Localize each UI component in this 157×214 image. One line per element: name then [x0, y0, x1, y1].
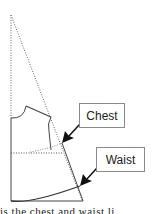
diagonal-guide-line — [11, 15, 82, 200]
waist-label: Waist — [96, 147, 145, 172]
chest-arrow-icon — [62, 124, 80, 143]
figure-caption: is the chest and waist li — [0, 205, 157, 214]
hem-curve — [11, 186, 80, 201]
armhole-curve — [48, 117, 51, 150]
shoulder-line — [26, 106, 51, 117]
chest-label: Chest — [79, 103, 125, 128]
side-seam-line — [62, 143, 83, 201]
neck-curve — [11, 106, 26, 118]
waist-arrow-icon — [80, 168, 97, 186]
chest-curve — [30, 143, 62, 152]
